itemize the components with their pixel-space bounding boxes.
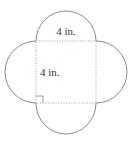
left-semicircle xyxy=(5,41,36,103)
left-side-label: 4 in. xyxy=(40,66,60,78)
right-semicircle xyxy=(96,41,127,103)
top-side-label: 4 in. xyxy=(56,25,76,37)
diagram-canvas: 4 in. 4 in. xyxy=(0,0,132,141)
right-angle-marker xyxy=(36,96,43,103)
bottom-semicircle xyxy=(36,103,96,134)
